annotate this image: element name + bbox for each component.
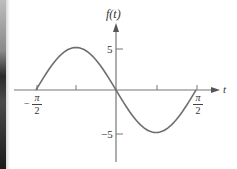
fraction-denominator: 2 xyxy=(193,106,203,116)
fraction-numerator: π xyxy=(193,93,203,103)
x-axis-arrow-icon xyxy=(211,87,220,93)
fraction-numerator: π xyxy=(32,93,42,103)
fraction-denominator: 2 xyxy=(32,106,42,116)
y-axis-label: f(t) xyxy=(106,8,121,20)
x-axis-label: t xyxy=(223,84,226,95)
y-tick-label-5: 5 xyxy=(107,44,113,55)
y-tick-label-neg-5: −5 xyxy=(101,129,113,140)
x-tick-label-pi-half: π 2 xyxy=(193,93,203,116)
minus-sign: − xyxy=(24,99,30,109)
x-tick-label-neg-pi-half: − π 2 xyxy=(32,93,42,116)
plot-area xyxy=(0,0,237,169)
y-axis-arrow-icon xyxy=(113,23,119,32)
